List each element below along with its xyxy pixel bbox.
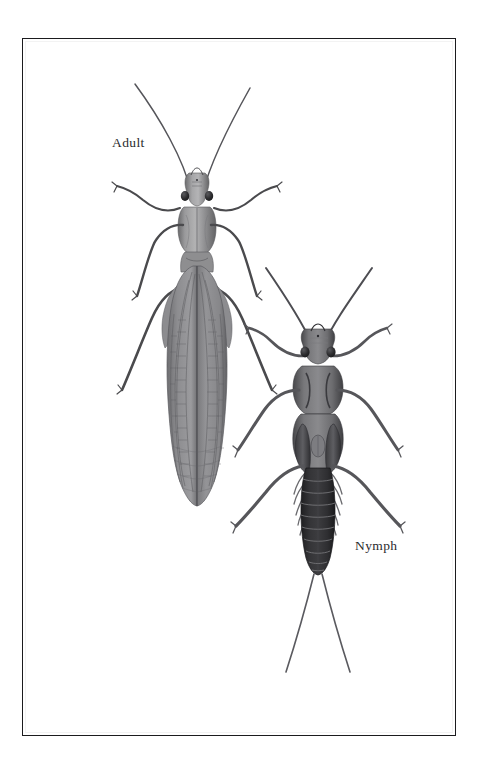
- adult-pronotum: [178, 207, 216, 254]
- stonefly-artwork: [0, 0, 480, 762]
- nymph-cerci: [286, 574, 350, 672]
- nymph-eye-left: [300, 347, 309, 358]
- nymph-abdomen: [301, 468, 335, 575]
- nymph-head: [300, 324, 335, 364]
- figure-label-nymph: Nymph: [355, 538, 398, 554]
- figure-label-adult: Adult: [112, 135, 145, 151]
- adult-forewings: [167, 266, 227, 506]
- adult-eye-left: [181, 191, 189, 201]
- nymph-stonefly-figure: [231, 268, 405, 672]
- adult-eye-right: [205, 191, 213, 201]
- nymph-eye-right: [326, 347, 335, 358]
- illustration-plate: Adult Nymph: [0, 0, 480, 762]
